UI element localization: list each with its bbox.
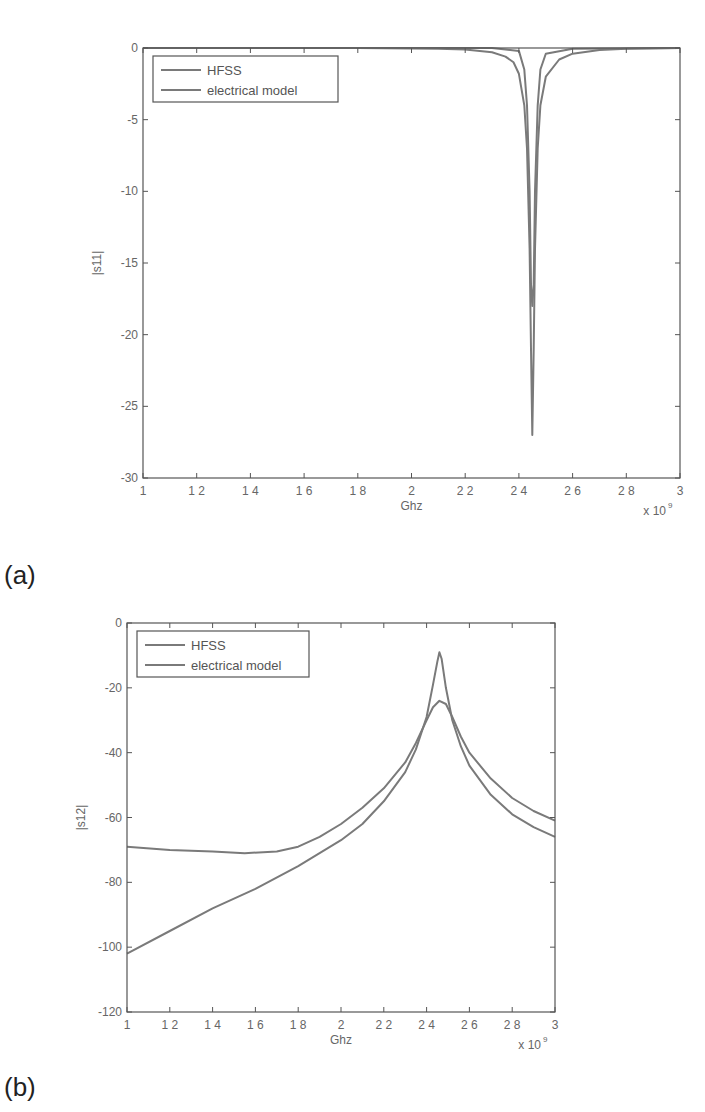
- figure-a: 11 21 41 61 822 22 42 62 830-5-10-15-20-…: [0, 0, 705, 560]
- x-tick-label: 2 2: [457, 484, 474, 498]
- plot-frame: [143, 48, 680, 478]
- y-tick-label: -25: [121, 399, 139, 413]
- y-tick-label: -40: [105, 746, 123, 760]
- x-tick-label: 2 8: [504, 1018, 521, 1032]
- x-tick-label: 1 8: [349, 484, 366, 498]
- x-tick-label: 1: [124, 1018, 131, 1032]
- y-tick-label: -5: [127, 113, 138, 127]
- legend-entry: electrical model: [191, 658, 281, 673]
- x-tick-label: 2 4: [418, 1018, 435, 1032]
- x-tick-label: 3: [677, 484, 684, 498]
- x-tick-label: 1 4: [242, 484, 259, 498]
- y-tick-label: 0: [115, 616, 122, 630]
- y-tick-label: -15: [121, 256, 139, 270]
- y-tick-label: -30: [121, 471, 139, 485]
- series-line-electrical-model: [127, 652, 555, 953]
- x-tick-label: 2 6: [461, 1018, 478, 1032]
- figure-b: 11 21 41 61 822 22 42 62 830-20-40-60-80…: [0, 560, 705, 1112]
- x-tick-label: 2 2: [375, 1018, 392, 1032]
- x-axis-label: Ghz: [330, 1033, 352, 1047]
- y-tick-label: -60: [105, 811, 123, 825]
- legend-entry: electrical model: [207, 83, 297, 98]
- y-tick-label: -10: [121, 184, 139, 198]
- panel-label-b: (b): [4, 1072, 36, 1103]
- series-line-hfss: [143, 48, 680, 435]
- x-tick-label: 3: [552, 1018, 559, 1032]
- y-tick-label: -20: [105, 681, 123, 695]
- x-tick-label: 1: [140, 484, 147, 498]
- legend: HFSSelectrical model: [137, 631, 309, 677]
- y-tick-label: -20: [121, 328, 139, 342]
- chart-s11: 11 21 41 61 822 22 42 62 830-5-10-15-20-…: [0, 0, 705, 560]
- x-tick-label: 2: [338, 1018, 345, 1032]
- x-tick-label: 1 6: [247, 1018, 264, 1032]
- x-tick-label: 1 6: [296, 484, 313, 498]
- x-tick-label: 2 8: [618, 484, 635, 498]
- x-multiplier-exponent: 9: [543, 1035, 548, 1044]
- legend-entry: HFSS: [207, 63, 242, 78]
- x-multiplier-exponent: 9: [668, 501, 673, 510]
- x-tick-label: 1 8: [290, 1018, 307, 1032]
- plot-frame: [127, 623, 555, 1012]
- series-line-hfss: [127, 701, 555, 853]
- legend-entry: HFSS: [191, 638, 226, 653]
- y-tick-label: -100: [98, 940, 122, 954]
- chart-s12: 11 21 41 61 822 22 42 62 830-20-40-60-80…: [0, 560, 705, 1060]
- y-tick-label: -80: [105, 875, 123, 889]
- x-tick-label: 1 4: [204, 1018, 221, 1032]
- x-tick-label: 1 2: [161, 1018, 178, 1032]
- x-tick-label: 2 6: [564, 484, 581, 498]
- x-multiplier-label: x 10: [518, 1038, 541, 1052]
- y-axis-label: |s11|: [90, 251, 104, 276]
- legend: HFSSelectrical model: [153, 56, 338, 102]
- y-axis-label: |s12|: [74, 805, 88, 831]
- x-tick-label: 1 2: [188, 484, 205, 498]
- x-tick-label: 2: [408, 484, 415, 498]
- y-tick-label: 0: [131, 41, 138, 55]
- y-tick-label: -120: [98, 1005, 122, 1019]
- x-axis-label: Ghz: [400, 499, 422, 513]
- x-tick-label: 2 4: [511, 484, 528, 498]
- x-multiplier-label: x 10: [643, 504, 666, 518]
